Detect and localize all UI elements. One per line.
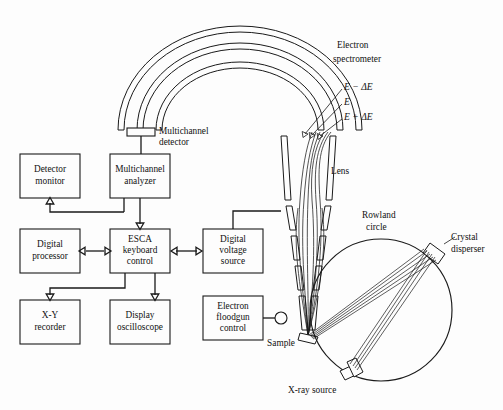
electron-floodgun-control-label-line2: floodgun — [216, 312, 250, 322]
floodgun-emitter-icon — [275, 312, 287, 324]
detector-monitor-label-line2: monitor — [35, 176, 65, 186]
diagram-canvas: Multichannel detector Detector monitor M… — [0, 0, 503, 410]
electron-spectrometer-label-line1: Electron — [337, 40, 369, 50]
energy-center-label: E — [343, 96, 350, 107]
multichannel-detector-element — [127, 128, 155, 136]
detector-monitor-label-line1: Detector — [34, 164, 67, 174]
crystal-disperser — [423, 243, 445, 264]
electron-spectrometer-label-line2: spectrometer — [333, 54, 382, 64]
hemispherical-analyzer-arcs — [118, 26, 362, 130]
display-oscilloscope-label-line2: oscilloscope — [117, 322, 163, 332]
rowland-circle-label-line2: circle — [366, 222, 387, 232]
xray-source-label: X-ray source — [288, 385, 336, 395]
lens-label: Lens — [331, 166, 349, 176]
display-oscilloscope-label-line1: Display — [126, 310, 155, 320]
rowland-circle — [310, 239, 452, 381]
electron-floodgun-control-label-line1: Electron — [217, 301, 249, 311]
electron-floodgun-control-label-line3: control — [220, 323, 247, 333]
energy-minus-label: E − ΔE — [343, 81, 373, 92]
multichannel-detector-label-line1: Multichannel — [159, 126, 209, 136]
rowland-circle-label-line1: Rowland — [362, 210, 396, 220]
multichannel-detector-label-line2: detector — [159, 137, 190, 147]
multichannel-analyzer-label-line2: analyzer — [124, 176, 156, 186]
digital-processor-label-line2: processor — [32, 251, 69, 261]
xy-recorder-label-line2: recorder — [35, 322, 67, 332]
crystal-disperser-label-line2: disperser — [451, 244, 485, 254]
digital-voltage-source-label-line1: Digital — [220, 234, 246, 244]
esca-keyboard-control-label-line2: keyboard — [123, 245, 158, 255]
sample-label: Sample — [267, 338, 295, 348]
energy-plus-label: E + ΔE — [343, 111, 373, 122]
esca-keyboard-control-label-line1: ESCA — [128, 234, 152, 244]
xy-recorder-label-line1: X-Y — [42, 310, 59, 320]
esca-instrument-diagram: Multichannel detector Detector monitor M… — [0, 0, 503, 410]
crystal-disperser-label-line1: Crystal — [451, 232, 478, 242]
multichannel-analyzer-label-line1: Multichannel — [115, 164, 165, 174]
lens-electrode-plates — [281, 136, 336, 330]
digital-voltage-source-label-line2: voltage — [219, 245, 246, 255]
esca-keyboard-control-label-line3: control — [127, 256, 154, 266]
digital-voltage-source-label-line3: source — [221, 256, 245, 266]
digital-processor-label-line1: Digital — [37, 239, 63, 249]
xray-beam-paths — [309, 249, 436, 370]
